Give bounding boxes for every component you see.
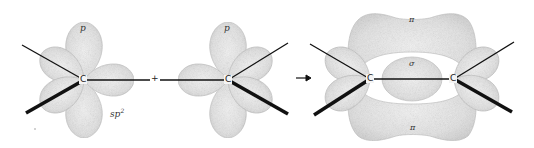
sp2-base: sp xyxy=(110,109,120,119)
orbital-diagram: p C sp2 + p C C C π σ π xyxy=(0,0,534,148)
product-orbitals xyxy=(319,14,506,141)
sp2-label: sp2 xyxy=(110,108,124,119)
product-left-carbon-symbol: C xyxy=(366,74,374,83)
product-right-carbon-symbol: C xyxy=(449,74,457,83)
middle-p-orbital-label: p xyxy=(224,24,230,33)
pi-top-label: π xyxy=(409,16,414,24)
sigma-label: σ xyxy=(409,60,414,68)
middle-carbon-symbol: C xyxy=(224,75,232,84)
reaction-arrow-icon xyxy=(296,75,311,81)
sp2-superscript: 2 xyxy=(120,107,124,114)
plus-sign: + xyxy=(151,74,159,83)
left-p-orbital-label: p xyxy=(80,24,86,33)
pi-bottom-label: π xyxy=(410,124,415,132)
left-carbon-symbol: C xyxy=(79,75,87,84)
